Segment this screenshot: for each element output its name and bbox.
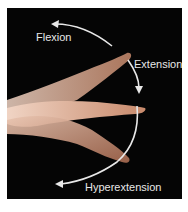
hyperextension-arrowhead-icon xyxy=(55,180,63,188)
hand-hyperextension xyxy=(7,116,130,163)
hand-motion-photo: Flexion Extension Hyperextension xyxy=(7,8,182,199)
label-hyperextension: Hyperextension xyxy=(85,181,161,193)
hand-illustration xyxy=(7,8,182,199)
extension-arrowhead-icon xyxy=(135,86,143,94)
hand-flexion xyxy=(7,53,131,108)
label-extension: Extension xyxy=(134,58,182,70)
flexion-arrowhead-icon xyxy=(51,20,59,28)
label-flexion: Flexion xyxy=(36,31,71,43)
